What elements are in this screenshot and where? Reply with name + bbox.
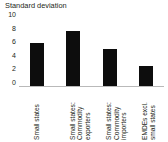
x-axis-category-label: Commodity	[76, 107, 83, 140]
bar	[139, 66, 153, 86]
x-axis-category-label: EMDEs excl.	[141, 102, 148, 140]
y-axis: 1086420	[0, 14, 18, 86]
y-axis-tick-label: 0	[12, 79, 16, 86]
x-axis-category-label: Small states	[33, 104, 40, 140]
x-axis-labels: Small statesSmall states:Commodityexport…	[19, 88, 164, 142]
x-axis-category-label: Small states:	[105, 102, 112, 140]
chart-title: Standard deviation	[5, 1, 67, 10]
x-axis-baseline	[19, 86, 164, 87]
y-axis-tick-label: 4	[12, 51, 16, 58]
bar	[30, 43, 44, 86]
standard-deviation-bar-chart: Standard deviation 1086420 Small statesS…	[0, 0, 168, 142]
bars-container	[19, 18, 164, 86]
x-axis-category-label: importers	[120, 113, 127, 140]
y-axis-tick-label: 2	[12, 65, 16, 72]
bar	[66, 31, 80, 86]
bar	[103, 49, 117, 86]
y-axis-tick-label: 6	[12, 38, 16, 45]
x-axis-category-label: exporters	[84, 113, 91, 141]
x-axis-category-label: Commodity	[113, 107, 120, 140]
y-axis-tick-label: 10	[8, 11, 16, 18]
y-axis-tick-label: 8	[12, 24, 16, 31]
x-axis-category-label: small states	[149, 105, 156, 140]
